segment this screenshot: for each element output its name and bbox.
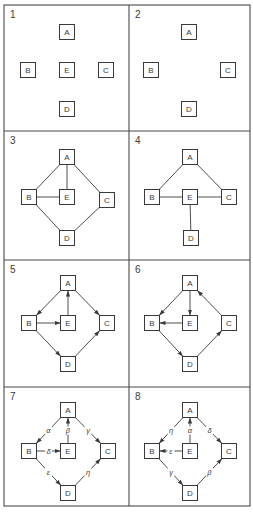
node-label: D <box>188 234 194 243</box>
node-label: A <box>64 28 70 37</box>
node-D: D <box>60 102 75 117</box>
edge-A-B <box>36 291 60 316</box>
edge-line <box>36 205 60 231</box>
node-label: A <box>187 153 193 162</box>
node-label: D <box>64 234 70 243</box>
node-label: C <box>103 66 109 75</box>
node-B: B <box>145 444 160 459</box>
edge-B-D <box>159 331 183 357</box>
node-E: E <box>183 444 198 459</box>
edge-line <box>159 331 183 357</box>
edge-A-B <box>159 291 183 316</box>
node-label: B <box>26 319 31 328</box>
edge-line <box>197 291 221 316</box>
node-B: B <box>145 316 160 331</box>
node-label: A <box>65 279 71 288</box>
node-label: D <box>65 489 71 498</box>
node-D: D <box>61 357 76 372</box>
node-label: A <box>187 279 193 288</box>
edge-A-B: η <box>159 418 183 444</box>
edge-B-D <box>36 331 61 357</box>
node-E: E <box>61 316 76 331</box>
panel-2: 2ABCD <box>135 9 236 117</box>
node-label: B <box>26 447 31 456</box>
node-D: D <box>60 231 75 246</box>
node-E: E <box>183 190 198 205</box>
node-label: C <box>105 447 111 456</box>
edge-D-C <box>75 207 100 231</box>
panel-number: 1 <box>10 9 16 20</box>
node-A: A <box>183 403 198 418</box>
node-label: E <box>187 319 192 328</box>
edge-D-C <box>75 331 100 357</box>
node-A: A <box>60 25 75 40</box>
node-label: D <box>186 105 192 114</box>
panel-5: 5ABECD <box>10 264 115 372</box>
edge-A-B <box>159 165 183 190</box>
node-label: E <box>65 319 70 328</box>
edge-A-C <box>74 165 100 193</box>
node-A: A <box>183 276 198 291</box>
node-C: C <box>222 190 237 205</box>
outer-frame <box>4 5 250 506</box>
edge-label: β <box>65 426 71 435</box>
node-B: B <box>144 63 159 78</box>
node-A: A <box>61 276 76 291</box>
edge-A-C <box>197 165 221 190</box>
panel-number: 7 <box>10 391 16 402</box>
panel-8: 8ηαδεγβABECD <box>135 391 237 501</box>
edge-E-D <box>190 205 191 231</box>
edge-label: β <box>206 468 212 477</box>
node-label: C <box>226 193 232 202</box>
node-C: C <box>100 316 115 331</box>
edge-A-C <box>75 291 99 316</box>
node-label: A <box>65 406 71 415</box>
edge-line <box>190 205 191 231</box>
panel-number: 6 <box>135 264 141 275</box>
edge-E-A: β <box>65 418 72 444</box>
node-label: E <box>187 193 192 202</box>
edge-B-D: γ <box>159 459 183 486</box>
edge-line <box>197 331 222 357</box>
edge-E-B: ε <box>160 447 183 456</box>
edge-D-C: β <box>197 459 222 486</box>
node-E: E <box>61 444 76 459</box>
node-B: B <box>22 316 37 331</box>
node-E: E <box>60 190 75 205</box>
edge-E-A: α <box>187 418 194 444</box>
edge-label: α <box>46 426 51 435</box>
node-B: B <box>21 63 36 78</box>
node-C: C <box>222 316 237 331</box>
node-D: D <box>182 102 197 117</box>
panel-number: 8 <box>135 391 141 402</box>
node-label: D <box>65 360 71 369</box>
edge-line <box>36 291 60 316</box>
node-label: C <box>225 66 231 75</box>
edge-B-D: ε <box>36 459 61 486</box>
node-label: D <box>64 105 70 114</box>
node-A: A <box>183 150 198 165</box>
node-label: B <box>149 193 154 202</box>
node-label: C <box>226 447 232 456</box>
node-label: C <box>104 196 110 205</box>
node-C: C <box>222 444 237 459</box>
edge-line <box>75 207 100 231</box>
node-E: E <box>183 316 198 331</box>
panel-4: 4ABECD <box>135 135 237 246</box>
node-A: A <box>61 403 76 418</box>
node-label: B <box>25 66 30 75</box>
node-B: B <box>22 444 37 459</box>
panel-3: 3ABECD <box>10 135 115 246</box>
edge-line <box>159 291 183 316</box>
edge-line <box>75 331 100 357</box>
node-label: E <box>187 447 192 456</box>
node-C: C <box>100 193 115 208</box>
edge-B-E: δ <box>37 447 61 456</box>
node-label: E <box>65 447 70 456</box>
edge-line <box>75 291 99 316</box>
edge-A-B <box>36 165 60 190</box>
node-label: A <box>186 28 192 37</box>
node-label: D <box>187 489 193 498</box>
node-E: E <box>60 63 75 78</box>
node-B: B <box>22 190 37 205</box>
